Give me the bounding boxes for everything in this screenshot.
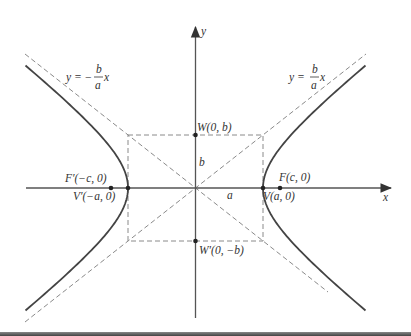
y-axis-label: y <box>200 25 207 38</box>
co-vertex-w-point <box>193 133 198 138</box>
bottom-border <box>0 332 411 336</box>
co-vertex-w-prime-point <box>193 239 198 244</box>
asymptote-pos-lhs: y = <box>288 71 305 84</box>
vertex-v-prime-point <box>126 186 131 191</box>
label-v: V(a, 0) <box>263 190 295 203</box>
label-w: W(0, b) <box>197 121 232 134</box>
asymptote-negative-label: y = − b a x <box>65 63 110 91</box>
hyperbola-diagram: y x y = − b a x y = b a x W(0, b) W′(0, … <box>0 0 411 336</box>
segment-label-b: b <box>199 156 205 168</box>
label-f: F(c, 0) <box>278 171 310 184</box>
x-axis-label: x <box>382 191 389 203</box>
asymptote-pos-num: b <box>312 63 318 75</box>
asymptote-neg-den: a <box>95 79 101 91</box>
asymptote-pos-den: a <box>311 79 317 91</box>
asymptote-neg-lhs: y = − <box>65 71 92 84</box>
asymptote-pos-rhs: x <box>319 71 326 83</box>
asymptote-positive-label: y = b a x <box>288 63 326 91</box>
asymptote-neg-num: b <box>96 63 102 75</box>
label-f-prime: F′(−c, 0) <box>64 172 107 185</box>
label-v-prime: V′(−a, 0) <box>73 190 115 203</box>
asymptote-neg-rhs: x <box>103 71 110 83</box>
label-w-prime: W′(0, −b) <box>199 244 244 257</box>
segment-label-a: a <box>227 189 233 201</box>
